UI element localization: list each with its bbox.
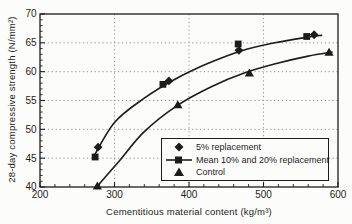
svg-text:50: 50 <box>25 124 37 135</box>
svg-text:55: 55 <box>25 95 37 106</box>
svg-text:40: 40 <box>25 181 37 192</box>
legend-item-control: Control <box>162 166 328 179</box>
svg-text:60: 60 <box>25 66 37 77</box>
triangle-marker-icon <box>162 167 196 177</box>
legend-item-5pct: 5% replacement <box>162 141 328 154</box>
legend: 5% replacement Mean 10% and 20% replacem… <box>161 138 329 181</box>
x-axis-label: Cementitious material content (kg/m³) <box>40 206 338 217</box>
legend-label: Control <box>196 167 225 177</box>
svg-text:45: 45 <box>25 153 37 164</box>
diamond-marker-icon <box>162 142 196 152</box>
svg-text:500: 500 <box>255 189 272 200</box>
plot-canvas: 20030040050060040455055606570 <box>0 0 352 224</box>
square-line-marker-icon <box>162 155 196 165</box>
svg-text:65: 65 <box>25 37 37 48</box>
svg-text:600: 600 <box>330 189 347 200</box>
y-axis-label: 28-day compressive strength (N/mm²) <box>6 0 17 200</box>
legend-label: 5% replacement <box>196 142 261 152</box>
svg-text:400: 400 <box>181 189 198 200</box>
svg-text:300: 300 <box>106 189 123 200</box>
legend-label: Mean 10% and 20% replacement <box>196 155 329 165</box>
compressive-strength-chart: 20030040050060040455055606570 28-day com… <box>0 0 352 224</box>
svg-text:70: 70 <box>25 8 37 19</box>
legend-item-mean: Mean 10% and 20% replacement <box>162 154 328 167</box>
